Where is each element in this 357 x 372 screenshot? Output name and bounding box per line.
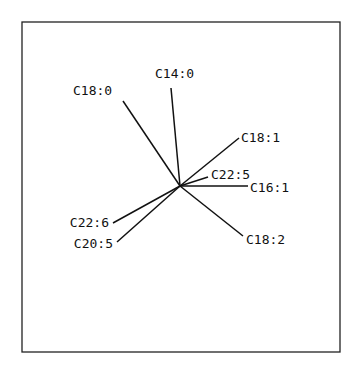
- vector-line-c20-5: [117, 186, 180, 242]
- vector-line-c22-6: [113, 186, 180, 223]
- vector-line-c18-2: [180, 186, 243, 236]
- vector-line-c14-0: [171, 88, 180, 186]
- vector-line-c18-0: [123, 101, 180, 186]
- biplot-chart: C18:0C14:0C18:1C22:5C16:1C18:2C22:6C20:5: [0, 0, 357, 372]
- vector-line-c22-5: [180, 177, 208, 186]
- vector-label-c20-5: C20:5: [74, 236, 113, 251]
- vector-label-c18-1: C18:1: [241, 130, 280, 145]
- vector-label-c16-1: C16:1: [250, 180, 289, 195]
- vector-label-c18-2: C18:2: [246, 232, 285, 247]
- vector-label-c22-6: C22:6: [70, 215, 109, 230]
- vector-label-c14-0: C14:0: [155, 66, 194, 81]
- vector-label-c18-0: C18:0: [73, 83, 112, 98]
- vector-label-c22-5: C22:5: [211, 167, 250, 182]
